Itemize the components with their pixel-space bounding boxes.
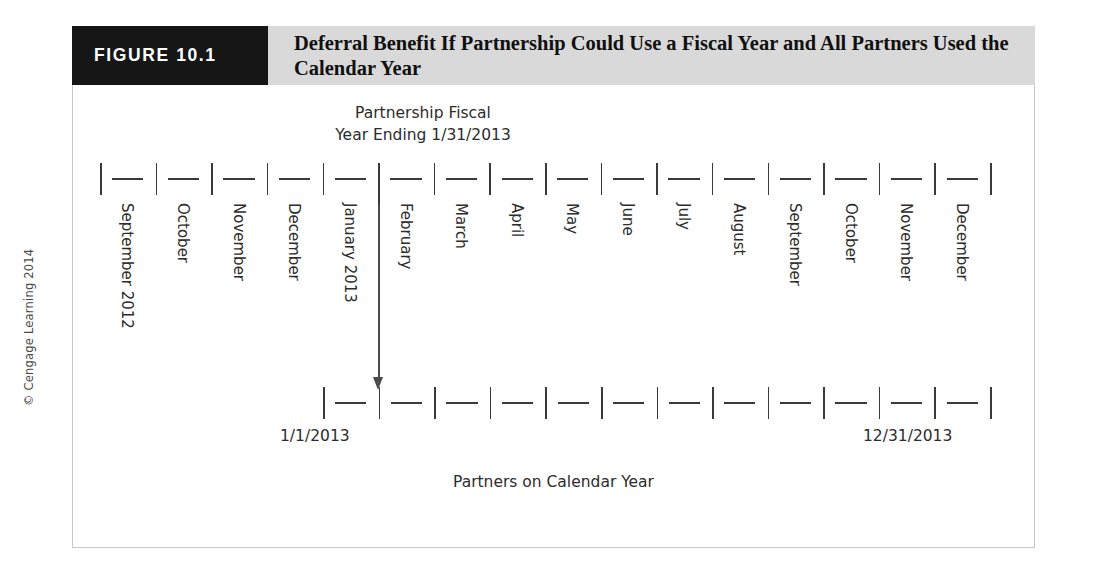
timeline-dash [613, 178, 644, 180]
timeline-tick [712, 387, 714, 419]
timeline-tick [323, 387, 325, 419]
timeline-tick [823, 387, 825, 419]
calendar-year-start-date: 1/1/2013 [280, 427, 350, 445]
timeline-dash [446, 178, 477, 180]
deferral-arrow [372, 205, 386, 397]
timeline-tick [990, 163, 992, 195]
month-label: July [676, 203, 691, 230]
timeline-tick [768, 387, 770, 419]
arrow-shaft [378, 205, 379, 383]
timeline-dash [947, 178, 978, 180]
month-label: April [509, 203, 524, 237]
timeline-tick [601, 387, 603, 419]
month-label: October [843, 203, 858, 263]
timeline-dash [835, 178, 866, 180]
timeline-dash [279, 178, 310, 180]
timeline-tick [100, 163, 102, 195]
month-label: June [620, 203, 635, 236]
timeline-dash [835, 402, 866, 404]
timeline-dash [668, 178, 699, 180]
month-label: November [231, 203, 246, 281]
month-label: December [286, 203, 301, 281]
timeline-dash [112, 178, 143, 180]
timeline-tick [712, 163, 714, 195]
figure-number-label: FIGURE 10.1 [94, 45, 217, 66]
timeline-tick [323, 163, 325, 195]
timeline-tick [545, 163, 547, 195]
timeline-tick [434, 163, 436, 195]
copyright-notice: © Cengage Learning 2014 [20, 226, 38, 406]
figure-number-block: FIGURE 10.1 [72, 26, 268, 85]
month-label: November [898, 203, 913, 281]
timeline-dash [502, 178, 533, 180]
partners-calendar-year-caption: Partners on Calendar Year [73, 473, 1034, 491]
timeline-dash [446, 402, 477, 404]
calendar-year-end-date: 12/31/2013 [863, 427, 952, 445]
timeline-dash [947, 402, 978, 404]
timeline-dash [558, 402, 589, 404]
timeline-tick [156, 163, 158, 195]
timeline-tick [434, 387, 436, 419]
timeline-dash [168, 178, 199, 180]
timeline-dash [335, 402, 366, 404]
timeline-tick [879, 387, 881, 419]
timeline-tick [823, 163, 825, 195]
month-label: October [175, 203, 190, 263]
timeline-tick [934, 163, 936, 195]
month-label: January 2013 [342, 203, 357, 303]
month-label: May [564, 203, 579, 234]
timeline-tick [211, 163, 213, 195]
figure-header: FIGURE 10.1 Deferral Benefit If Partners… [72, 26, 1035, 85]
timeline-tick [879, 163, 881, 195]
timeline-partners-calendar-year [323, 387, 990, 421]
month-label: March [453, 203, 468, 249]
timeline-tick [489, 163, 491, 195]
timeline-dash [891, 402, 922, 404]
timeline-tick [657, 387, 659, 419]
timeline-dash [724, 402, 755, 404]
timeline-dash [613, 402, 644, 404]
timeline-dash [502, 402, 533, 404]
timeline-dash [390, 178, 421, 180]
timeline-partnership-fiscal-year [100, 163, 990, 197]
month-label: February [398, 203, 413, 269]
month-label: September [787, 203, 802, 286]
figure-container: FIGURE 10.1 Deferral Benefit If Partners… [72, 26, 1035, 549]
timeline-tick [990, 387, 992, 419]
timeline-dash [335, 178, 366, 180]
fiscal-year-caption: Partnership Fiscal Year Ending 1/31/2013 [258, 102, 588, 146]
timeline-dash [724, 178, 755, 180]
timeline-dash [780, 178, 811, 180]
timeline-tick [656, 163, 658, 195]
timeline-dash [557, 178, 588, 180]
timeline-dash [223, 178, 254, 180]
month-label: September 2012 [119, 203, 134, 329]
timeline-dash [891, 178, 922, 180]
timeline-tick [934, 387, 936, 419]
timeline-tick [490, 387, 492, 419]
timeline-tick [379, 387, 381, 419]
figure-title-area: Deferral Benefit If Partnership Could Us… [268, 26, 1035, 85]
fiscal-caption-line-1: Partnership Fiscal [258, 102, 588, 124]
timeline-tick [378, 163, 380, 205]
timeline-dash [391, 402, 422, 404]
timeline-tick [545, 387, 547, 419]
month-label: August [731, 203, 746, 256]
fiscal-caption-line-2: Year Ending 1/31/2013 [258, 124, 588, 146]
figure-title-text: Deferral Benefit If Partnership Could Us… [294, 31, 1021, 81]
month-label: December [954, 203, 969, 281]
timeline-tick [267, 163, 269, 195]
timeline-dash [780, 402, 811, 404]
timeline-tick [601, 163, 603, 195]
figure-body: Partnership Fiscal Year Ending 1/31/2013… [72, 85, 1035, 548]
timeline-tick [768, 163, 770, 195]
timeline-dash [669, 402, 700, 404]
